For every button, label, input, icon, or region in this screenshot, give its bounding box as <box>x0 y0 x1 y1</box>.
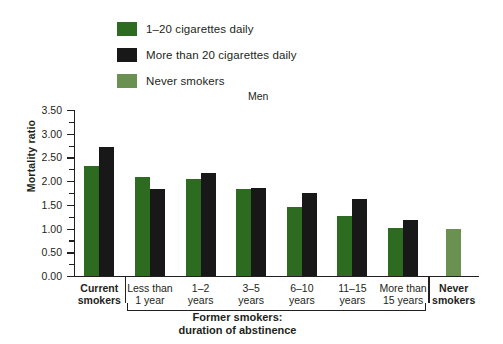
y-tick-label: 3.50 <box>26 104 62 116</box>
x-axis-label: Neversmokers <box>428 279 479 306</box>
bar-group <box>378 110 429 276</box>
y-tick-major <box>67 276 74 277</box>
bar <box>99 147 114 276</box>
x-axis-label-line: 3–5 <box>242 282 260 294</box>
x-axis-label: Currentsmokers <box>74 279 125 306</box>
bar-groups <box>74 110 479 276</box>
y-tick-major <box>67 134 74 135</box>
bar <box>302 193 317 276</box>
x-axis-label: More than15 years <box>378 279 429 306</box>
bar <box>236 189 251 276</box>
x-axis-label-line: Never <box>439 282 468 294</box>
chart-legend: 1–20 cigarettes daily More than 20 cigar… <box>117 18 297 96</box>
legend-label-more-than-20-cigarettes: More than 20 cigarettes daily <box>146 49 297 61</box>
bar <box>135 177 150 276</box>
bar <box>403 220 418 276</box>
legend-label-never-smokers: Never smokers <box>146 75 225 87</box>
bar-group <box>327 110 378 276</box>
y-tick-major <box>67 252 74 253</box>
bar-group <box>175 110 226 276</box>
bar-group <box>226 110 277 276</box>
x-axis-label-line: smokers <box>432 294 475 306</box>
x-axis-label-line: More than <box>379 282 426 294</box>
x-axis-label-line: 1–2 <box>192 282 210 294</box>
y-tick-major <box>67 110 74 111</box>
y-tick-label: 2.00 <box>26 175 62 187</box>
legend-swatch-never-smokers <box>117 74 137 88</box>
y-tick-major <box>67 181 74 182</box>
bar-group <box>74 110 125 276</box>
x-axis-label: 1–2years <box>175 279 226 306</box>
bar <box>150 189 165 276</box>
y-tick-major <box>67 205 74 206</box>
bar-group <box>125 110 176 276</box>
legend-item-1-20-cigarettes: 1–20 cigarettes daily <box>117 18 297 40</box>
x-axis-label-line: Current <box>80 282 118 294</box>
x-axis-label: Less than1 year <box>125 279 176 306</box>
legend-swatch-1-20-cigarettes <box>117 22 137 36</box>
bar-group <box>428 110 479 276</box>
bar <box>186 179 201 276</box>
x-axis-labels: CurrentsmokersLess than1 year1–2years3–5… <box>74 279 479 306</box>
bracket-label-line1: Former smokers: <box>193 311 283 323</box>
bar <box>388 228 403 276</box>
legend-item-never-smokers: Never smokers <box>117 70 297 92</box>
x-axis-label-line: smokers <box>78 294 121 306</box>
x-axis-label: 6–10years <box>277 279 328 306</box>
y-tick-label: 1.00 <box>26 223 62 235</box>
legend-swatch-more-than-20-cigarettes <box>117 48 137 62</box>
plot-title: Men <box>248 90 268 102</box>
former-smokers-bracket-label: Former smokers: duration of abstinence <box>0 311 489 336</box>
x-axis-label: 11–15years <box>327 279 378 306</box>
y-tick-label: 0.50 <box>26 246 62 258</box>
y-tick-label: 2.50 <box>26 151 62 163</box>
bar <box>352 199 367 276</box>
bar <box>337 216 352 276</box>
x-axis-label-line: Less than <box>127 282 173 294</box>
x-axis-label-line: 11–15 <box>338 282 366 294</box>
bar <box>287 207 302 276</box>
bar <box>251 188 266 276</box>
mortality-ratio-bar-chart: 1–20 cigarettes daily More than 20 cigar… <box>0 0 503 344</box>
bar-group <box>277 110 328 276</box>
bar <box>201 173 216 276</box>
legend-item-more-than-20-cigarettes: More than 20 cigarettes daily <box>117 44 297 66</box>
y-tick-label: 0.00 <box>26 270 62 282</box>
y-tick-major <box>67 157 74 158</box>
bar <box>446 229 461 276</box>
bracket-label-line2: duration of abstinence <box>179 324 297 336</box>
y-tick-major <box>67 229 74 230</box>
legend-label-1-20-cigarettes: 1–20 cigarettes daily <box>146 23 254 35</box>
bar <box>84 166 99 276</box>
x-axis-label: 3–5years <box>226 279 277 306</box>
former-smokers-bracket <box>127 303 427 311</box>
y-tick-label: 3.00 <box>26 128 62 140</box>
y-tick-label: 1.50 <box>26 199 62 211</box>
x-axis-line <box>74 276 479 277</box>
x-axis-label-line: 6–10 <box>290 282 313 294</box>
